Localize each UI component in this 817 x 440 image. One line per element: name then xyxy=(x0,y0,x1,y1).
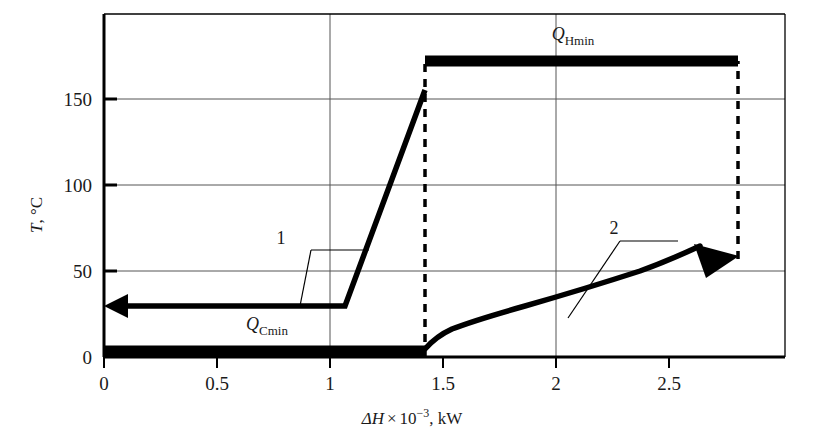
x-axis-title-ten: 10 xyxy=(400,409,417,428)
x-axis-title-exponent: −3 xyxy=(417,406,430,420)
xtick-label-0.5: 0.5 xyxy=(205,373,229,394)
x-axis-title: ΔH×10−3, kW xyxy=(361,406,464,428)
ytick-label-100: 100 xyxy=(64,175,93,196)
xtick-label-1.5: 1.5 xyxy=(431,373,455,394)
q-cmin-label-symbol: Q xyxy=(246,314,259,334)
q-cmin-label-sub: Cmin xyxy=(259,323,288,338)
ytick-label-150: 150 xyxy=(64,89,93,110)
x-axis-title-times: × xyxy=(387,409,397,428)
ytick-label-50: 50 xyxy=(73,261,92,282)
curve-2-callout-text: 2 xyxy=(610,218,619,238)
q-hmin-label-sub: Hmin xyxy=(565,33,595,48)
y-axis-title-unit: , °C xyxy=(27,197,46,224)
svg-text:T, °C: T, °C xyxy=(27,197,46,233)
xtick-label-2.5: 2.5 xyxy=(657,373,681,394)
xtick-label-1: 1 xyxy=(325,373,335,394)
x-axis-title-h: H xyxy=(371,409,386,428)
curve-1-callout-text: 1 xyxy=(277,228,286,248)
xtick-label-0: 0 xyxy=(99,373,109,394)
xtick-label-2: 2 xyxy=(551,373,561,394)
chart-figure: 150 100 50 0 0 0.5 1 1.5 2 2.5 T, °C ΔH×… xyxy=(0,0,817,440)
ytick-label-0: 0 xyxy=(83,347,93,368)
q-hmin-label-symbol: Q xyxy=(552,24,565,44)
x-axis-title-delta: Δ xyxy=(361,409,372,428)
y-axis-title: T, °C xyxy=(27,197,46,233)
chart-svg: 150 100 50 0 0 0.5 1 1.5 2 2.5 T, °C ΔH×… xyxy=(0,0,817,440)
x-axis-title-unit: , kW xyxy=(429,409,463,428)
